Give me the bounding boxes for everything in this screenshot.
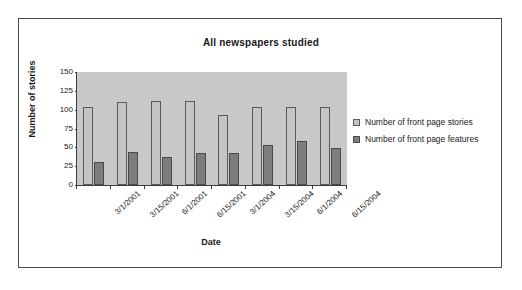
x-axis-tick-label: 3/1/2001 <box>113 189 142 217</box>
x-axis-tick-label: 6/1/2004 <box>315 189 344 217</box>
y-axis-tick-label: 100 <box>60 106 73 114</box>
x-axis-tick-mark <box>76 186 77 189</box>
y-axis-tick-label: 50 <box>64 143 73 151</box>
bar-group <box>320 72 341 185</box>
x-axis-tick-mark <box>346 186 347 189</box>
bar-group <box>185 72 206 185</box>
x-axis-tick-mark <box>245 186 246 189</box>
bar <box>83 107 93 185</box>
bar <box>151 101 161 185</box>
bar <box>218 115 228 185</box>
x-axis-tick-label: 6/15/2004 <box>350 189 382 220</box>
legend-label: Number of front page stories <box>365 117 473 127</box>
x-axis-tick-label: 3/15/2001 <box>148 189 180 220</box>
bar-group <box>218 72 239 185</box>
x-axis-tick-label: 6/15/2001 <box>215 189 247 220</box>
x-axis-tick-mark <box>110 186 111 189</box>
bar <box>185 101 195 185</box>
x-axis-tick-mark <box>144 186 145 189</box>
x-axis-tick-mark <box>211 186 212 189</box>
legend-entry: Number of front page stories <box>353 115 503 129</box>
y-axis-tick-label: 75 <box>64 125 73 133</box>
y-axis-tick-label: 125 <box>60 87 73 95</box>
chart-figure: All newspapers studied Number of stories… <box>0 0 522 290</box>
x-axis-tick-label: 3/15/2004 <box>283 189 315 220</box>
y-axis-title: Number of stories <box>27 49 37 149</box>
bar <box>128 152 138 185</box>
legend-entry: Number of front page features <box>353 132 503 146</box>
bar <box>162 157 172 185</box>
bar <box>297 141 307 185</box>
bar <box>331 148 341 185</box>
x-axis-tick-mark <box>279 186 280 189</box>
bar-group <box>117 72 138 185</box>
x-axis-title: Date <box>76 237 346 247</box>
legend-label: Number of front page features <box>365 134 478 144</box>
plot-area <box>76 72 347 186</box>
y-axis-tick-label: 150 <box>60 68 73 76</box>
bar-group <box>83 72 104 185</box>
bar-group <box>286 72 307 185</box>
bar <box>320 107 330 185</box>
bar <box>196 153 206 185</box>
bar <box>263 145 273 185</box>
chart-title: All newspapers studied <box>19 37 503 48</box>
chart-frame: All newspapers studied Number of stories… <box>18 18 502 268</box>
x-axis-tick-label: 3/1/2004 <box>248 189 277 217</box>
bar <box>94 162 104 185</box>
bar <box>286 107 296 185</box>
chart-legend: Number of front page storiesNumber of fr… <box>353 115 503 149</box>
x-axis-tick-mark <box>177 186 178 189</box>
x-axis-tick-mark <box>312 186 313 189</box>
bars-layer <box>77 72 347 185</box>
bar <box>229 153 239 185</box>
bar-group <box>252 72 273 185</box>
bar-group <box>151 72 172 185</box>
x-axis-tick-label: 6/1/2001 <box>180 189 209 217</box>
legend-swatch-icon <box>353 119 360 126</box>
y-axis-tick-label: 0 <box>69 181 73 189</box>
y-axis-tick-label: 25 <box>64 162 73 170</box>
y-axis-tick-labels: 0255075100125150 <box>49 72 73 185</box>
bar <box>117 102 127 185</box>
bar <box>252 107 262 185</box>
legend-swatch-icon <box>353 136 360 143</box>
